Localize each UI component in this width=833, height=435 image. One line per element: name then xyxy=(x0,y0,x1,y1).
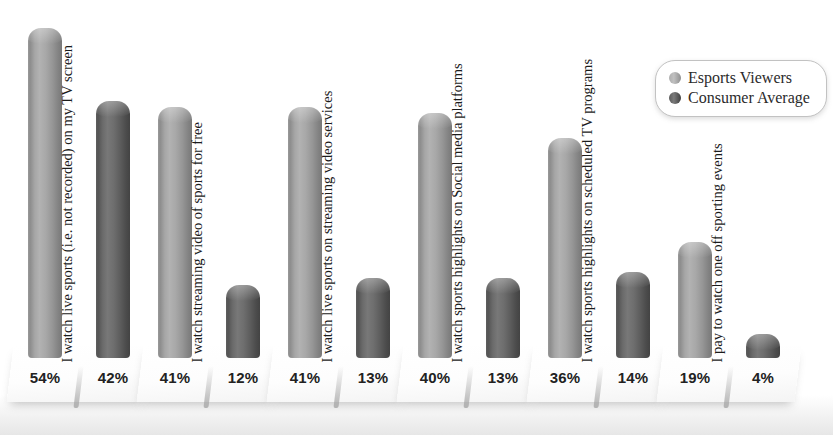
bar[interactable] xyxy=(158,107,192,358)
legend-swatch-icon xyxy=(669,92,681,104)
bar-value-label: 14% xyxy=(602,369,664,386)
category-label: I watch sports highlights on scheduled T… xyxy=(580,59,595,363)
bar-value-label: 40% xyxy=(404,369,466,386)
category-label: I watch streaming video of sports for fr… xyxy=(190,122,205,362)
bar[interactable] xyxy=(486,278,520,358)
legend-label: Consumer Average xyxy=(688,89,810,107)
legend-swatch-icon xyxy=(669,72,681,84)
bar-value-label: 42% xyxy=(82,369,144,386)
legend-label: Esports Viewers xyxy=(688,69,792,87)
bar-value-label: 13% xyxy=(472,369,534,386)
bar[interactable] xyxy=(28,28,62,358)
bar[interactable] xyxy=(678,242,712,358)
category-label: I watch live sports (i.e. not recorded) … xyxy=(60,45,75,363)
bar-chart: 54%42%I watch live sports (i.e. not reco… xyxy=(0,0,833,435)
bar-value-label: 36% xyxy=(534,369,596,386)
bar[interactable] xyxy=(418,113,452,358)
bar-value-label: 13% xyxy=(342,369,404,386)
category-label: I watch live sports on streaming video s… xyxy=(320,91,335,363)
bar[interactable] xyxy=(356,278,390,358)
legend-item-esports-viewers[interactable]: Esports Viewers xyxy=(669,68,810,88)
bar[interactable] xyxy=(96,101,130,358)
category-label: I pay to watch one off sporting events xyxy=(710,143,725,362)
chart-legend: Esports Viewers Consumer Average xyxy=(655,60,827,117)
bar-value-label: 19% xyxy=(664,369,726,386)
legend-item-consumer-average[interactable]: Consumer Average xyxy=(669,88,810,108)
bar[interactable] xyxy=(288,107,322,358)
bar-value-label: 12% xyxy=(212,369,274,386)
bar[interactable] xyxy=(746,334,780,358)
bar[interactable] xyxy=(616,272,650,358)
floor-shadow xyxy=(0,395,833,435)
bar-value-label: 41% xyxy=(274,369,336,386)
bar-value-label: 54% xyxy=(14,369,76,386)
bar[interactable] xyxy=(226,285,260,358)
bar-value-label: 41% xyxy=(144,369,206,386)
bar[interactable] xyxy=(548,138,582,358)
category-label: I watch sports highlights on Social medi… xyxy=(450,63,465,362)
bar-value-label: 4% xyxy=(732,369,794,386)
